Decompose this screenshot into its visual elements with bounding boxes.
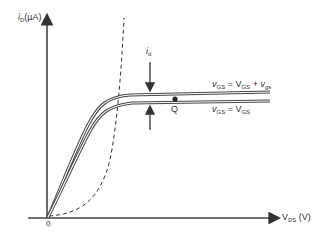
extra-sub: gs (265, 84, 271, 90)
id-sub: d (148, 51, 151, 57)
q-point-label: Q (171, 105, 178, 114)
x-unit: (V) (296, 212, 311, 222)
y-unit: (µA) (24, 12, 41, 22)
curve-label-lower: vGS = VGS (212, 105, 250, 115)
curve-label-upper: vGS = VGS + vgs (212, 80, 271, 90)
id-label: id (146, 47, 151, 57)
lhs-sub: GS (217, 84, 226, 90)
rhs-sub: GS (241, 109, 250, 115)
eq: = (225, 104, 235, 114)
lhs-sub: GS (217, 109, 226, 115)
plus: + (250, 79, 260, 89)
x-axis-label: VDS (V) (282, 213, 311, 223)
curve-vgs (48, 101, 270, 217)
q-point-dot (172, 96, 177, 101)
rhs-sub: GS (241, 84, 250, 90)
y-axis-label: iD(µA) (18, 13, 42, 23)
eq: = (225, 79, 235, 89)
origin-label: 0 (46, 220, 50, 228)
mosfet-characteristic-diagram (0, 0, 324, 239)
